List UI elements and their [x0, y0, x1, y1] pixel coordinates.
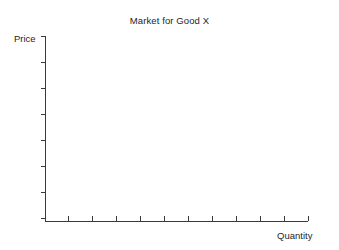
y-axis-tick-group: [41, 37, 45, 219]
chart-figure: Market for Good X Price Quantity: [0, 0, 339, 250]
plot-area: [45, 36, 308, 221]
axes-graphic: [0, 0, 339, 250]
y-axis: [41, 36, 46, 222]
